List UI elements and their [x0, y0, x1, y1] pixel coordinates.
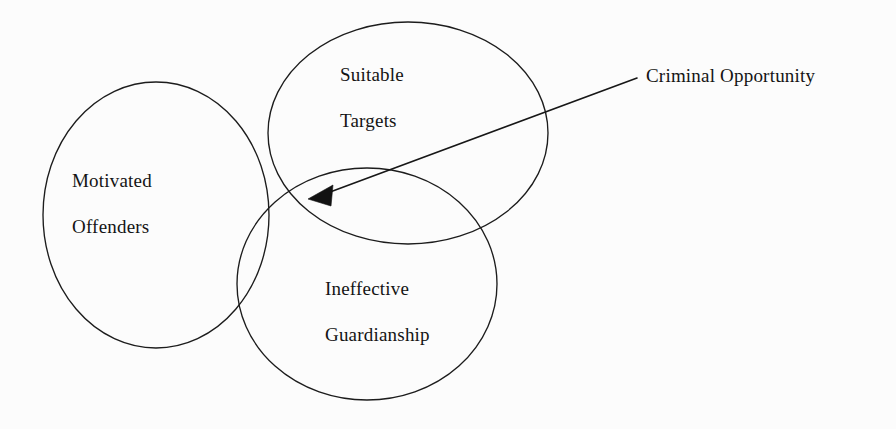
label-suitable-targets-line2: Targets [340, 98, 404, 144]
label-suitable-targets: Suitable Targets [340, 52, 404, 144]
circle-suitable-targets[interactable] [268, 22, 548, 244]
label-motivated-offenders-line2: Offenders [72, 204, 152, 250]
label-ineffective-guardianship-line1: Ineffective [325, 266, 430, 312]
label-criminal-opportunity: Criminal Opportunity [646, 62, 815, 90]
label-ineffective-guardianship: Ineffective Guardianship [325, 266, 430, 358]
label-criminal-opportunity-text: Criminal Opportunity [646, 62, 815, 90]
criminal-opportunity-arrowhead-icon [308, 185, 333, 206]
label-motivated-offenders-line1: Motivated [72, 158, 152, 204]
label-ineffective-guardianship-line2: Guardianship [325, 312, 430, 358]
label-motivated-offenders: Motivated Offenders [72, 158, 152, 250]
label-suitable-targets-line1: Suitable [340, 52, 404, 98]
venn-diagram-canvas: Motivated Offenders Suitable Targets Ine… [0, 0, 896, 429]
